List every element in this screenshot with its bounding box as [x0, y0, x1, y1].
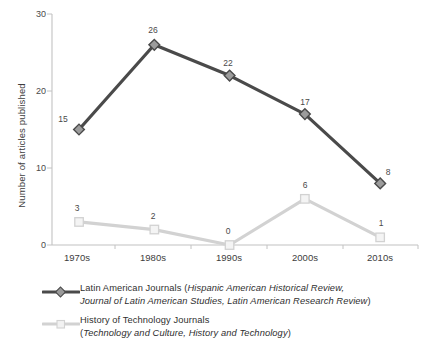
legend-item-history-of-technology: History of Technology Journals(Technolog…	[42, 314, 431, 339]
data-label-latin-1980s: 26	[138, 25, 168, 35]
data-label-tech-2010s: 1	[366, 218, 396, 228]
legend-label-tech-paren-close: )	[288, 328, 291, 338]
data-point-tech-2000s	[301, 195, 310, 204]
line-chart: Number of articles published 30 20 10 0 …	[0, 0, 431, 357]
legend-label-latin-plain-1: Latin American Journals (	[80, 283, 187, 293]
data-label-latin-2000s: 17	[290, 97, 320, 107]
x-tick-label-2010s: 2010s	[350, 252, 410, 263]
data-point-tech-1990s	[225, 241, 234, 250]
chart-legend: Latin American Journals (Hispanic Americ…	[42, 282, 431, 346]
data-point-tech-2010s	[376, 233, 385, 242]
legend-label-latin-american: Latin American Journals (Hispanic Americ…	[80, 282, 371, 307]
x-tick-label-2000s: 2000s	[275, 252, 335, 263]
data-point-latin-1990s	[224, 70, 235, 81]
data-label-tech-2000s: 6	[290, 180, 320, 190]
legend-label-latin-italic-2: Journal of Latin American Studies, Latin…	[80, 296, 367, 306]
plot-area	[0, 0, 431, 280]
legend-label-history-of-technology: History of Technology Journals(Technolog…	[80, 314, 291, 339]
legend-label-tech-plain-1: History of Technology Journals	[80, 315, 209, 325]
data-label-latin-1990s: 22	[213, 58, 243, 68]
legend-item-latin-american: Latin American Journals (Hispanic Americ…	[42, 282, 431, 307]
data-label-tech-1990s: 0	[213, 226, 243, 236]
series-line-history-of-technology	[79, 199, 380, 245]
legend-label-tech-italic-1: Technology and Culture, History and Tech…	[83, 328, 287, 338]
data-point-tech-1970s	[75, 218, 84, 227]
series-markers-history-of-technology	[75, 195, 385, 250]
data-label-latin-2010s: 8	[373, 167, 403, 177]
data-point-tech-1980s	[150, 225, 159, 234]
legend-marker-latin-american	[42, 284, 80, 296]
data-label-tech-1970s: 3	[62, 203, 92, 213]
data-label-tech-1980s: 2	[138, 211, 168, 221]
x-tick-label-1970s: 1970s	[47, 252, 107, 263]
data-label-latin-1970s: 15	[48, 114, 78, 124]
x-tick-label-1980s: 1980s	[123, 252, 183, 263]
legend-label-latin-italic-1: Hispanic American Historical Review,	[187, 283, 344, 293]
x-tick-label-1990s: 1990s	[199, 252, 259, 263]
legend-label-latin-plain-2: )	[367, 296, 370, 306]
legend-marker-history-of-technology	[42, 316, 80, 328]
